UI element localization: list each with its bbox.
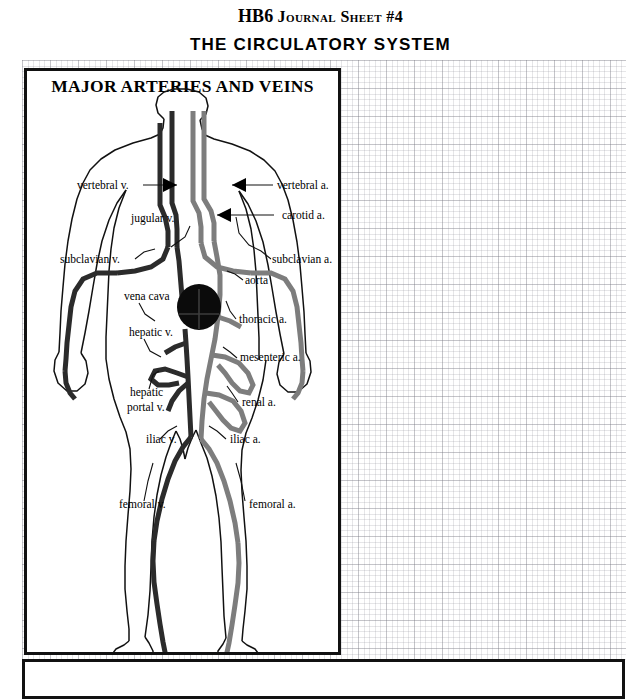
thoracic-branch [218,317,241,327]
vessel-label-renal-a: renal a. [242,396,276,408]
left-iliac-vein [154,437,191,541]
diagram-panel: MAJOR ARTERIES AND VEINS [24,68,341,655]
superior-vena-cava [177,247,182,297]
human-body-circulatory-figure: vertebral v.vertebral a.jugular v.caroti… [27,71,338,652]
vessel-label-iliac-a: iliac a. [230,433,261,445]
answer-box [22,659,625,699]
vessel-label-portal-v: portal v. [127,401,165,414]
aortic-arch [201,243,251,273]
page-subtitle: THE CIRCULATORY SYSTEM [0,35,641,55]
vessel-label-carotid-a: carotid a. [282,209,325,221]
vessel-label-hepatic: hepatic [130,386,163,399]
vessel-label-hepatic-v: hepatic v. [129,326,173,339]
vessel-label-mesenteric-a: mesenteric a. [240,351,301,363]
vessel-label-jugular-v: jugular v. [130,212,174,225]
vessel-label-vertebral-v: vertebral v. [77,179,129,191]
vessel-label-subclavian-a: subclavian a. [272,253,332,265]
renal-artery [206,393,245,431]
course-code: HB6 [238,6,274,26]
subclavian-vein [117,247,168,273]
page-header: HB6 Journal Sheet #4 THE CIRCULATORY SYS… [0,0,641,55]
vessel-label-vena-cava: vena cava [124,290,170,302]
vessel-label-subclavian-v: subclavian v. [60,253,120,265]
vessel-labels: vertebral v.vertebral a.jugular v.caroti… [60,179,332,510]
vessel-label-thoracic-a: thoracic a. [239,313,287,325]
sheet-number: Journal Sheet #4 [278,8,404,25]
vessel-label-iliac-v: iliac v. [146,433,177,445]
arteries-group [193,111,303,652]
hepatic-vein [165,343,186,353]
vessel-label-vertebral-a: vertebral a. [277,179,329,191]
right-femoral-artery [226,543,239,652]
vessel-label-aorta: aorta [245,274,268,286]
vessel-label-femoral-v: femoral v. [119,498,166,510]
hepatic-portal-vein [151,369,188,385]
journal-sheet-title: HB6 Journal Sheet #4 [0,0,641,27]
heart [177,284,221,330]
body-outline [54,89,311,652]
vessel-label-femoral-a: femoral a. [249,498,296,510]
veins-group [65,111,191,652]
left-femoral-vein [153,541,166,652]
